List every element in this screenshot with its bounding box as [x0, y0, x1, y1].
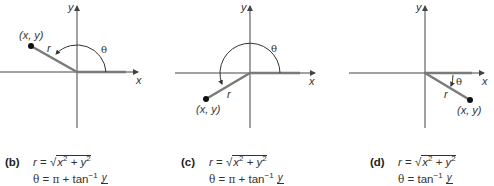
plus: +: [63, 173, 70, 185]
equals: =: [40, 156, 47, 168]
ray-r: [31, 46, 77, 72]
pi-symbol: π: [228, 173, 235, 185]
diagram-b: (x, y) r θ x y: [0, 1, 142, 128]
formula-b: (b)r = √x2 + y2 θ = π + tan−1 yx: [5, 152, 108, 186]
r-label: r: [47, 42, 52, 54]
r-symbol: r: [398, 156, 402, 168]
theta-arc: [451, 75, 453, 86]
theta-symbol: θ: [209, 173, 215, 185]
point-label: (x, y): [19, 29, 44, 41]
x-axis-label: x: [481, 75, 488, 87]
tan-function: tan: [72, 173, 88, 185]
panel-label: (c): [181, 155, 209, 169]
equals: =: [43, 173, 50, 185]
exponent: 2: [451, 154, 455, 163]
r-symbol: r: [209, 156, 213, 168]
theta-label: θ: [101, 44, 107, 55]
inverse-exponent: −1: [264, 171, 273, 180]
fraction: yx: [446, 173, 453, 186]
plus: +: [247, 156, 254, 168]
y-axis-label: y: [415, 1, 423, 13]
point-label: (x, y): [457, 104, 482, 116]
numerator: y: [446, 173, 453, 184]
diagram-c: (x, y) r θ x y: [175, 1, 315, 128]
r-label: r: [444, 88, 449, 100]
inverse-exponent: −1: [433, 171, 442, 180]
exponent: 2: [86, 154, 90, 163]
y-axis-label: y: [240, 1, 248, 13]
diagram-d: (x, y) r θ x y: [349, 1, 488, 128]
plus: +: [239, 173, 246, 185]
denominator: x: [446, 184, 453, 186]
equals: =: [216, 156, 223, 168]
theta-symbol: θ: [33, 173, 39, 185]
point-label: (x, y): [196, 103, 221, 115]
theta-label: θ: [456, 76, 462, 87]
point-marker: [28, 43, 34, 49]
denominator: x: [277, 184, 284, 186]
y-axis-label: y: [67, 1, 75, 13]
fraction: yx: [101, 173, 108, 186]
exponent: 2: [262, 154, 266, 163]
panel-label: (b): [5, 155, 33, 169]
panel-label: (d): [370, 155, 398, 169]
equals: =: [219, 173, 226, 185]
x-axis-label: x: [135, 74, 142, 86]
theta-arc: [56, 45, 106, 72]
theta-label: θ: [271, 43, 277, 54]
tan-function: tan: [248, 173, 264, 185]
exponent: 2: [428, 154, 432, 163]
formula-c: (c)r = √x2 + y2 θ = π + tan−1 yx: [181, 152, 284, 186]
plus: +: [71, 156, 78, 168]
plus: +: [436, 156, 443, 168]
numerator: y: [101, 173, 108, 184]
theta-symbol: θ: [398, 173, 404, 185]
fraction: yx: [277, 173, 284, 186]
pi-symbol: π: [52, 173, 59, 185]
r-symbol: r: [33, 156, 37, 168]
exponent: 2: [63, 154, 67, 163]
inverse-exponent: −1: [88, 171, 97, 180]
r-label: r: [227, 88, 232, 100]
equals: =: [405, 156, 412, 168]
x-axis-label: x: [308, 75, 315, 87]
equals: =: [408, 173, 415, 185]
exponent: 2: [239, 154, 243, 163]
tan-function: tan: [417, 173, 433, 185]
point-marker: [203, 96, 209, 102]
denominator: x: [101, 184, 108, 186]
point-marker: [467, 97, 473, 103]
formula-d: (d)r = √x2 + y2 θ = tan−1 yx: [370, 152, 456, 186]
numerator: y: [277, 173, 284, 184]
